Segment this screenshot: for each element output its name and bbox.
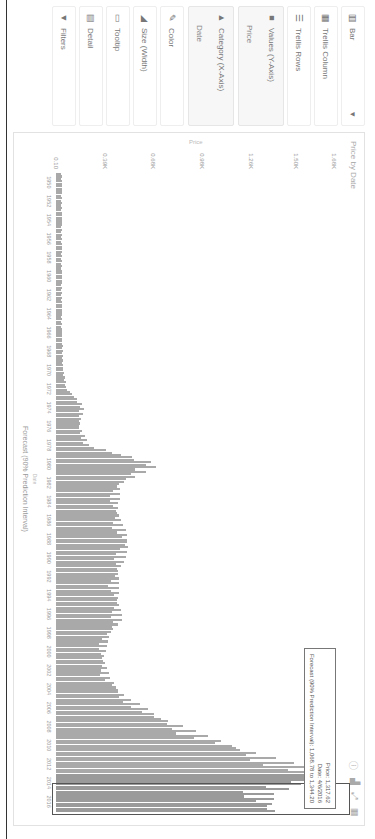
x-tick: 1992 — [46, 570, 52, 582]
values-y-axis-header[interactable]: ■ Values (Y-Axis) — [261, 7, 283, 125]
y-tick: 1.50K — [293, 139, 299, 169]
x-tick: 1960 — [46, 270, 52, 282]
sidebar-item-filters[interactable]: ▼ Filters — [52, 6, 76, 126]
chevron-down-icon: ▾ — [348, 109, 358, 119]
page-divider — [6, 0, 7, 839]
x-tick: 1968 — [46, 345, 52, 357]
x-tick: 2016 — [46, 795, 52, 807]
filter-icon: ▼ — [59, 13, 69, 23]
rotated-stage: ▥ Bar ▾ ▦ Trellis Column ☰ Trellis Rows … — [0, 0, 375, 839]
x-tick: 1954 — [46, 214, 52, 226]
x-tick: 1958 — [46, 251, 52, 263]
x-tick: 2004 — [46, 683, 52, 695]
sidebar-item-label: Trellis Column — [322, 28, 331, 79]
y-tick: 0.10 — [53, 139, 59, 169]
values-label: Values (Y-Axis) — [268, 28, 277, 82]
y-tick: 0.39K — [102, 139, 108, 169]
x-tick: 1962 — [46, 289, 52, 301]
chart-type-label: Bar — [349, 28, 358, 40]
x-tick: 1982 — [46, 476, 52, 488]
x-tick: 1978 — [46, 439, 52, 451]
values-group: ■ Values (Y-Axis) Price — [238, 6, 284, 126]
detail-icon: ▤ — [86, 13, 96, 23]
sidebar-item-size[interactable]: ◢ Size (Width) — [133, 6, 157, 126]
x-tick: 1988 — [46, 533, 52, 545]
x-tick: 1996 — [46, 608, 52, 620]
x-axis-subtitle: Date — [32, 133, 38, 825]
x-tick: 1950 — [46, 176, 52, 188]
chart-panel: Price by Date ⓘ ▟ ⤢ ▦ Price 0.10 0.39K 0… — [13, 132, 365, 826]
x-tick: 2010 — [46, 739, 52, 751]
sidebar-item-trellis-rows[interactable]: ☰ Trellis Rows — [287, 6, 311, 126]
y-tick: 0.68K — [150, 139, 156, 169]
x-tick: 1966 — [46, 326, 52, 338]
sidebar-item-label: Filters — [60, 28, 69, 50]
x-tick: 1998 — [46, 627, 52, 639]
x-tick: 1986 — [46, 514, 52, 526]
x-tick: 1980 — [46, 458, 52, 470]
values-field-price[interactable]: Price — [239, 7, 261, 125]
sidebar-item-tooltip[interactable]: ▭ Tooltip — [106, 6, 130, 126]
y-tick: 1.68K — [331, 139, 337, 169]
category-field-date[interactable]: Date — [189, 7, 211, 125]
x-tick: 1956 — [46, 233, 52, 245]
plot-area: 0.10 0.39K 0.68K 0.98K 1.26K 1.50K 1.68K… — [56, 173, 342, 811]
color-icon: ✎ — [167, 13, 177, 23]
x-tick: 1994 — [46, 589, 52, 601]
trellis-rows-icon: ☰ — [294, 13, 304, 23]
x-tick: 1972 — [46, 383, 52, 395]
sidebar-item-color[interactable]: ✎ Color — [160, 6, 184, 126]
category-group: ▲ Category (X-Axis) Date — [188, 6, 234, 126]
x-tick: 1970 — [46, 364, 52, 376]
size-icon: ◢ — [140, 13, 150, 23]
bar-chart-icon: ▥ — [348, 13, 358, 23]
x-tick: 1974 — [46, 401, 52, 413]
y-tick: 1.26K — [248, 139, 254, 169]
x-tick: 1964 — [46, 308, 52, 320]
x-axis-title: Forecast (90% Prediction Interval) — [22, 133, 29, 825]
info-icon[interactable]: ⓘ — [347, 761, 360, 770]
x-axis-labels: 1950195219541956195819601962196419661968… — [40, 173, 52, 811]
x-tick: 2000 — [46, 645, 52, 657]
category-x-axis-header[interactable]: ▲ Category (X-Axis) — [211, 7, 233, 125]
x-tick: 2008 — [46, 720, 52, 732]
x-tick: 1976 — [46, 420, 52, 432]
tooltip-icon: ▭ — [113, 13, 123, 23]
tooltip-price: Price: 1,317.62 — [324, 654, 332, 803]
x-tick: 1952 — [46, 195, 52, 207]
sidebar-item-label: Tooltip — [114, 28, 123, 51]
chart-title: Price by Date — [349, 141, 358, 189]
category-field-label: Date — [196, 25, 205, 42]
x-tick: 1984 — [46, 495, 52, 507]
sidebar-item-label: Size (Width) — [141, 28, 150, 72]
chart-type-selector[interactable]: ▥ Bar ▾ — [341, 6, 365, 126]
chart-tooltip: Price: 1,317.62 Date: 4/6/2016 Forecast … — [304, 648, 336, 809]
bar-series — [56, 173, 342, 811]
x-tick: 2006 — [46, 702, 52, 714]
x-tick: 2014 — [46, 777, 52, 789]
x-tick: 1990 — [46, 552, 52, 564]
sidebar-item-label: Trellis Rows — [295, 28, 304, 71]
category-icon: ▲ — [217, 13, 227, 23]
tooltip-forecast: Forecast (90% Prediction Interval): 1,06… — [308, 654, 316, 803]
sidebar-item-label: Color — [168, 28, 177, 47]
values-field-label: Price — [246, 25, 255, 43]
category-label: Category (X-Axis) — [218, 28, 227, 91]
sidebar-item-trellis-column[interactable]: ▦ Trellis Column — [314, 6, 338, 126]
sidebar: ▥ Bar ▾ ▦ Trellis Column ☰ Trellis Rows … — [65, 6, 365, 126]
x-tick: 2002 — [46, 664, 52, 676]
tooltip-date: Date: 4/6/2016 — [316, 654, 324, 803]
y-tick: 0.98K — [199, 139, 205, 169]
x-tick: 2012 — [46, 758, 52, 770]
sidebar-item-detail[interactable]: ▤ Detail — [79, 6, 103, 126]
values-icon: ■ — [267, 13, 277, 23]
trellis-column-icon: ▦ — [321, 13, 331, 23]
sidebar-item-label: Detail — [87, 28, 96, 48]
